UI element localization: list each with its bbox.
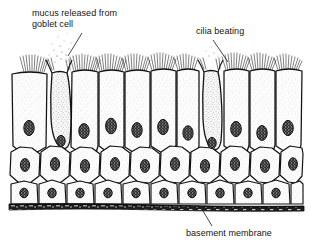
basal-cell — [291, 181, 303, 204]
nucleus — [260, 160, 269, 173]
columnar-cell — [177, 69, 199, 154]
nucleus — [231, 121, 242, 136]
nucleus — [80, 160, 89, 173]
columnar-cell — [224, 69, 249, 153]
nucleus — [20, 159, 29, 172]
nucleus — [20, 188, 28, 198]
columnar-cell — [250, 69, 275, 154]
nucleus — [257, 126, 267, 141]
nucleus — [200, 160, 209, 173]
nucleus — [170, 158, 179, 171]
diagram-canvas — [0, 0, 311, 250]
nucleus — [140, 160, 149, 173]
nucleus — [230, 158, 239, 171]
columnar-cell — [125, 70, 150, 154]
nucleus — [132, 123, 142, 138]
nucleus — [160, 188, 168, 198]
nucleus — [208, 137, 216, 148]
columnar-cell — [99, 70, 124, 154]
columnar-cell — [151, 69, 176, 153]
nucleus — [132, 188, 140, 198]
epithelium-diagram: mucus released from goblet cell cilia be… — [0, 0, 311, 250]
nucleus — [104, 188, 112, 198]
nucleus — [106, 118, 117, 134]
nucleus — [158, 119, 169, 134]
nucleus — [76, 188, 84, 198]
columnar-cell — [12, 72, 47, 154]
nucleus — [50, 158, 59, 171]
label-basement-membrane: basement membrane — [186, 228, 272, 239]
nucleus — [79, 124, 89, 139]
nucleus — [183, 126, 193, 140]
columnar-cell — [276, 69, 302, 153]
nucleus — [283, 120, 294, 135]
label-cilia-beating: cilia beating — [196, 26, 244, 37]
nucleus — [57, 135, 65, 146]
nucleus — [244, 188, 252, 198]
nucleus — [272, 188, 280, 198]
nucleus — [48, 188, 56, 198]
columnar-cell — [71, 70, 98, 154]
nucleus — [216, 188, 224, 198]
nucleus — [289, 158, 298, 170]
nucleus — [110, 158, 119, 171]
label-mucus-released: mucus released from goblet cell — [32, 8, 117, 30]
nucleus — [24, 120, 34, 135]
nucleus — [188, 188, 196, 198]
